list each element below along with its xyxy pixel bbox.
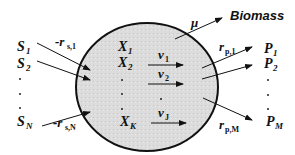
ellipsis-dot	[160, 98, 162, 100]
substrate-s2: S 2	[17, 56, 31, 73]
svg-text:X: X	[119, 114, 130, 129]
svg-text:v: v	[158, 105, 164, 120]
svg-text:1: 1	[128, 46, 133, 56]
secretion-rate-p1: r p,1	[219, 39, 235, 56]
svg-text:p,M: p,M	[225, 125, 239, 134]
svg-text:2: 2	[272, 63, 278, 73]
svg-text:J: J	[165, 113, 169, 122]
svg-text:P: P	[264, 41, 273, 56]
svg-text:1: 1	[26, 46, 31, 56]
svg-text:1: 1	[165, 55, 169, 64]
growth-rate-mu: μ	[190, 15, 198, 30]
biomass-label: Biomass	[230, 8, 284, 23]
svg-text:K: K	[129, 121, 137, 131]
ellipsis-dot	[19, 93, 21, 95]
svg-text:X: X	[117, 39, 128, 54]
cell-boundary	[76, 23, 218, 151]
substrate-sn: S N	[17, 114, 33, 131]
ellipsis-dot	[267, 79, 269, 81]
svg-text:v: v	[158, 47, 164, 62]
svg-text:v: v	[158, 66, 164, 81]
ellipsis-dot	[267, 94, 269, 96]
svg-text:p,1: p,1	[225, 47, 235, 56]
ellipsis-dot	[121, 108, 123, 110]
svg-text:2: 2	[25, 63, 31, 73]
svg-text:S: S	[17, 114, 25, 129]
svg-text:s,1: s,1	[67, 42, 76, 51]
svg-text:-r: -r	[53, 115, 63, 130]
svg-text:2: 2	[127, 62, 133, 72]
svg-text:1: 1	[273, 48, 278, 58]
ellipsis-dot	[19, 78, 21, 80]
metabolic-network-diagram: μ Biomass S 1 S 2 S N -r s,1 -r s,N X 1 …	[0, 0, 295, 155]
biomass-arrow	[175, 18, 222, 39]
secretion-rate-pm: r p,M	[219, 117, 239, 134]
svg-text:X: X	[117, 55, 128, 70]
product-pm: P M	[266, 114, 284, 131]
product-p2: P 2	[264, 56, 278, 73]
svg-text:S: S	[17, 39, 25, 54]
ellipsis-dot	[121, 93, 123, 95]
uptake-rate-s1: -r s,1	[55, 34, 76, 51]
svg-text:S: S	[17, 56, 25, 71]
substrate-s1: S 1	[17, 39, 31, 56]
svg-text:P: P	[264, 56, 273, 71]
svg-text:-r: -r	[55, 34, 65, 49]
ellipsis-dot	[267, 108, 269, 110]
ellipsis-dot	[121, 79, 123, 81]
svg-text:s,N: s,N	[65, 123, 76, 132]
svg-text:N: N	[25, 121, 33, 131]
svg-text:P: P	[266, 114, 275, 129]
ellipsis-dot	[19, 107, 21, 109]
svg-text:M: M	[274, 121, 284, 131]
svg-text:2: 2	[165, 74, 169, 83]
